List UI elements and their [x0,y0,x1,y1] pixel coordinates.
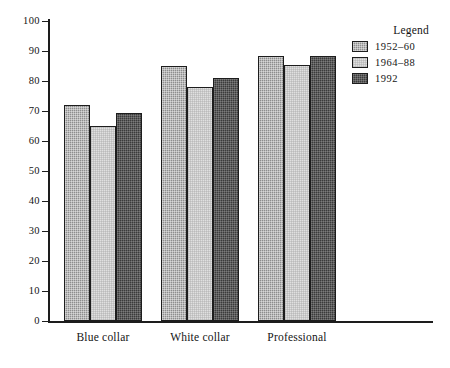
bar-group [258,0,336,321]
y-axis-tick [42,141,49,142]
y-axis-tick-label: 70 [6,106,40,117]
legend-swatch-icon [352,57,368,68]
y-axis-tick [42,51,49,52]
legend: Legend 1952–601964–881992 [352,24,448,87]
y-axis-tick-label: 0 [6,316,40,327]
y-axis-tick-label: 60 [6,136,40,147]
legend-item-label: 1952–60 [375,41,415,52]
legend-item[interactable]: 1992 [352,71,448,85]
y-axis-tick [42,111,49,112]
legend-item[interactable]: 1964–88 [352,55,448,69]
y-axis-tick-label: 80 [6,76,40,87]
legend-swatch-icon [352,41,368,52]
bar [310,56,336,322]
legend-item[interactable]: 1952–60 [352,39,448,53]
x-axis-line [48,321,433,323]
y-axis-tick-label: 20 [6,256,40,267]
bar-group [64,0,142,321]
y-axis-tick-label: 50 [6,166,40,177]
y-axis-tick [42,261,49,262]
bar-chart: 1009080706050403020100 Blue collarWhite … [0,0,450,368]
bar [90,126,116,321]
y-axis-tick [42,321,49,322]
bar [116,113,142,322]
y-axis-tick-label: 90 [6,46,40,57]
legend-swatch-icon [352,73,368,84]
bar [284,65,310,322]
y-axis-tick [42,21,49,22]
bar [64,105,90,321]
legend-item-label: 1992 [375,73,398,84]
bar [161,66,187,321]
y-axis-tick [42,171,49,172]
y-axis-tick [42,81,49,82]
y-axis-tick-label: 10 [6,286,40,297]
y-axis-tick-label: 40 [6,196,40,207]
y-axis-tick [42,291,49,292]
x-axis-category-label: Professional [234,331,360,343]
bar [258,56,284,322]
y-axis-tick [42,201,49,202]
legend-title: Legend [352,24,448,36]
legend-item-label: 1964–88 [375,57,415,68]
bar [213,78,239,321]
bar [187,87,213,321]
y-axis-tick-label: 100 [6,16,40,27]
bar-group [161,0,239,321]
y-axis-tick [42,231,49,232]
legend-item-list: 1952–601964–881992 [352,39,448,85]
y-axis-tick-label: 30 [6,226,40,237]
